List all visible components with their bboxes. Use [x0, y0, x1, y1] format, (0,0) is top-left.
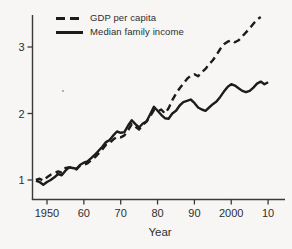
solid-line-sample-icon	[56, 31, 83, 34]
scan-speck	[62, 90, 64, 92]
x-tick-label: 70	[115, 207, 127, 219]
series-line-median-family-income	[36, 82, 268, 185]
series-line-gdp-per-capita	[36, 17, 261, 181]
x-axis-title: Year	[130, 226, 190, 238]
legend-label-income: Median family income	[90, 27, 184, 37]
x-tick-label: 2000	[219, 207, 243, 219]
chart-legend: GDP per capita Median family income	[56, 13, 184, 37]
legend-item-income: Median family income	[56, 27, 184, 37]
y-tick-label: 1	[18, 174, 24, 186]
x-tick-label: 1950	[35, 207, 59, 219]
x-tick-label: 80	[151, 207, 163, 219]
x-tick-label: 60	[78, 207, 90, 219]
dashed-line-sample-icon	[56, 17, 83, 20]
legend-label-gdp: GDP per capita	[90, 13, 156, 23]
legend-item-gdp: GDP per capita	[56, 13, 184, 23]
y-tick-label: 2	[18, 108, 24, 120]
y-tick-label: 3	[18, 41, 24, 53]
chart-figure: 123195060708090200010 GDP per capita Med…	[0, 0, 292, 249]
x-tick-label: 90	[188, 207, 200, 219]
x-tick-label: 10	[262, 207, 274, 219]
chart-canvas: 123195060708090200010	[0, 0, 292, 249]
